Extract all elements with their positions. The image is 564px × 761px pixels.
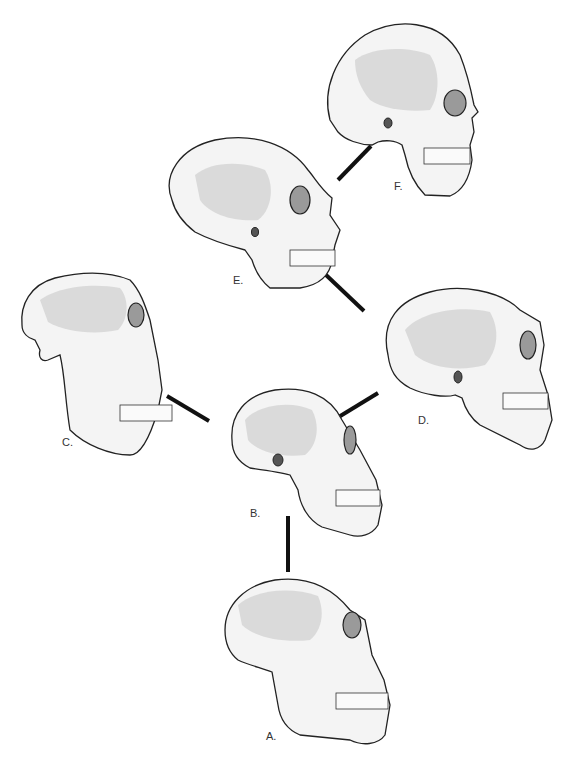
label-b: B.: [250, 507, 260, 519]
orbit-a: [343, 612, 361, 638]
orbit-d: [520, 331, 536, 359]
teeth-d: [503, 393, 548, 409]
orbit-e: [290, 186, 310, 214]
orbit-f: [444, 90, 466, 116]
skull-d: [386, 289, 552, 450]
orbit-b: [344, 426, 356, 454]
skull-a: [225, 579, 390, 744]
label-f: F.: [394, 180, 403, 192]
teeth-a: [336, 693, 388, 709]
skull-c: [22, 273, 172, 455]
skull-evolution-diagram: F. E. D. C. B. A.: [0, 0, 564, 761]
teeth-b: [336, 490, 380, 506]
connector-e-d: [325, 274, 364, 311]
teeth-c: [120, 405, 172, 421]
label-d: D.: [418, 414, 429, 426]
label-e: E.: [233, 274, 243, 286]
orbit-c: [128, 303, 144, 327]
teeth-e: [290, 250, 335, 266]
connector-b-d: [337, 393, 378, 418]
connector-c-b: [167, 396, 209, 421]
label-c: C.: [62, 436, 73, 448]
label-a: A.: [266, 730, 276, 742]
skull-e: [169, 138, 340, 288]
connector-e-f: [338, 146, 371, 180]
teeth-f: [424, 148, 470, 164]
